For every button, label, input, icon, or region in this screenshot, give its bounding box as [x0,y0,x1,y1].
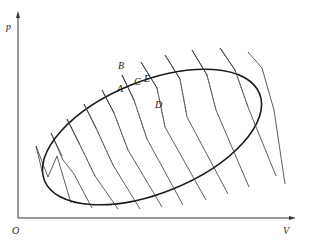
point-label-a: A [116,83,124,94]
zigzag-teeth [36,48,235,175]
x-axis-arrow-icon [289,216,296,220]
y-axis-arrow-icon [16,11,20,18]
pv-diagram: p V O B A C E D [0,0,309,245]
y-axis-label: p [5,21,11,32]
axes [16,11,296,220]
dashed-segments [79,70,248,176]
point-label-d: D [154,99,163,110]
cycle-ellipse [23,42,280,233]
point-label-b: B [118,60,124,71]
origin-label: O [12,225,19,236]
point-label-e: E [143,73,150,84]
x-axis-label: V [283,225,291,236]
zigzag-segments [36,48,285,209]
point-label-c: C [134,76,141,87]
